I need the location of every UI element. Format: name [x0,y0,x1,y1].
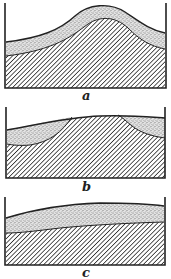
panel-a: a [5,3,166,103]
diagram-figure: a b c [0,0,171,279]
panel-c: c [5,197,165,279]
panel-label-a: a [82,88,90,103]
panel-label-b: b [82,179,91,194]
panel-b: b [6,107,165,194]
panel-label-c: c [82,265,90,279]
